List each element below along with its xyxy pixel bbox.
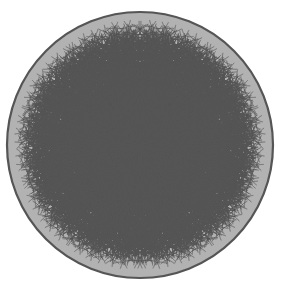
poincare-disk-diagram: [0, 0, 281, 292]
hyperbolic-tiling-figure: [0, 0, 281, 292]
geodesic-edge: [139, 130, 141, 171]
